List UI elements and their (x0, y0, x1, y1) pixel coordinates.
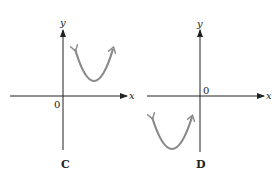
panel-c: x y 0 C (10, 17, 135, 171)
y-axis-label: y (59, 17, 66, 28)
panel-caption: D (196, 158, 206, 171)
origin-label: 0 (203, 85, 209, 96)
origin-label: 0 (54, 99, 60, 110)
parabola-curve (75, 49, 113, 81)
x-axis-label: x (129, 90, 135, 101)
panel-caption: C (61, 158, 70, 171)
y-axis-label: y (196, 18, 203, 29)
panel-d: x y 0 D (147, 18, 272, 171)
parabola-curve (152, 117, 192, 149)
diagram-canvas: x y 0 C x y 0 D (0, 0, 273, 175)
x-axis-label: x (266, 90, 272, 101)
